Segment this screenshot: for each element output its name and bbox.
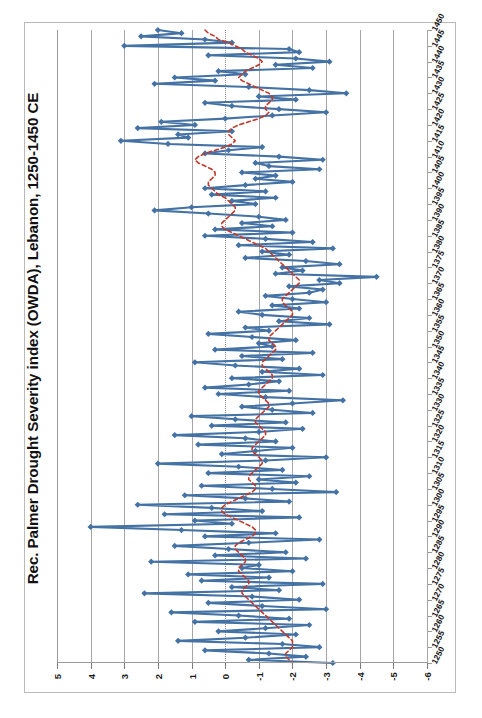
category-axis-tick [428,77,432,78]
data-point-marker [286,498,292,504]
series-line [91,30,377,663]
category-axis-tick [428,141,432,142]
data-point-marker [286,46,292,52]
value-axis-label: 1 [186,664,197,690]
data-point-marker [296,49,302,55]
data-point-marker [273,195,279,201]
data-point-marker [239,353,245,359]
data-point-marker [296,514,302,520]
data-point-marker [343,90,349,96]
value-axis: 543210-1-2-3-4-5-6 [57,663,427,693]
data-point-marker [293,55,299,61]
data-point-marker [262,625,268,631]
data-point-marker [306,315,312,321]
data-point-marker [172,543,178,549]
data-point-marker [259,369,265,375]
data-point-marker [336,280,342,286]
data-point-marker [256,93,262,99]
data-point-marker [165,141,171,147]
data-point-marker [246,381,252,387]
data-point-marker [310,350,316,356]
data-point-marker [256,214,262,220]
data-point-marker [306,473,312,479]
data-point-marker [209,423,215,429]
data-point-marker [289,179,295,185]
data-point-marker [340,397,346,403]
data-point-marker [151,81,157,87]
data-point-marker [283,419,289,425]
data-point-marker [276,318,282,324]
series-annual [88,27,380,666]
data-point-marker [273,172,279,178]
data-point-marker [185,135,191,141]
data-point-marker [236,464,242,470]
chart-title: Rec. Palmer Drought Severity index (OWDA… [24,19,41,659]
data-point-marker [279,356,285,362]
data-point-marker [242,635,248,641]
data-point-marker [259,508,265,514]
data-point-marker [306,290,312,296]
data-point-marker [212,78,218,84]
data-point-marker [256,340,262,346]
data-point-marker [242,182,248,188]
category-axis-tick [428,188,432,189]
data-point-marker [168,609,174,615]
data-point-marker [199,578,205,584]
category-axis-tick [428,331,432,332]
data-point-marker [205,210,211,216]
data-point-marker [293,631,299,637]
value-axis-label: 5 [52,664,63,690]
data-point-marker [259,144,265,150]
data-point-marker [316,166,322,172]
data-point-marker [316,536,322,542]
data-point-marker [236,309,242,315]
category-axis-tick [428,521,432,522]
data-point-marker [182,492,188,498]
data-point-marker [262,236,268,242]
category-axis-tick [428,157,432,158]
category-axis-tick [428,394,432,395]
data-point-marker [229,103,235,109]
data-point-marker [262,394,268,400]
data-point-marker [279,467,285,473]
category-axis-tick [428,109,432,110]
data-point-marker [286,252,292,258]
chart-figure: Rec. Palmer Drought Severity index (OWDA… [0,0,482,718]
data-point-marker [256,476,262,482]
data-point-marker [323,454,329,460]
category-axis-tick [428,267,432,268]
data-point-marker [289,229,295,235]
data-point-marker [289,296,295,302]
category-axis-tick [428,299,432,300]
value-axis-label: -5 [388,664,399,690]
data-point-marker [242,255,248,261]
data-point-marker [299,267,305,273]
value-axis-label: -4 [354,664,365,690]
value-axis-label: 0 [220,664,231,690]
data-point-marker [242,435,248,441]
data-point-marker [222,116,228,122]
data-point-marker [246,657,252,663]
category-axis-tick [428,663,432,664]
data-point-marker [283,217,289,223]
data-point-marker [205,470,211,476]
data-point-marker [276,587,282,593]
category-axis-tick [428,283,432,284]
data-point-marker [246,540,252,546]
data-point-marker [195,442,201,448]
category-axis-tick [428,616,432,617]
data-point-marker [229,375,235,381]
category-axis-tick [428,378,432,379]
data-point-marker [259,312,265,318]
category-axis-tick [428,204,432,205]
data-point-marker [192,619,198,625]
data-point-marker [299,426,305,432]
category-axis-tick [428,93,432,94]
data-point-marker [175,131,181,137]
category-axis-tick [428,172,432,173]
data-point-marker [202,647,208,653]
data-point-marker [266,650,272,656]
data-point-marker [316,277,322,283]
category-axis-tick [428,473,432,474]
data-point-marker [303,654,309,660]
